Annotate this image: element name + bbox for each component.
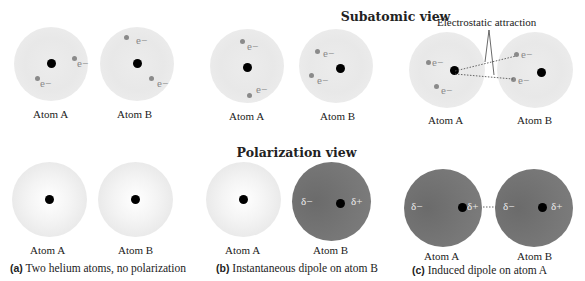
- atom-a-label: Atom A: [225, 244, 260, 256]
- atom-a-polarization-b: [206, 162, 281, 237]
- caption-text: Two helium atoms, no polarization: [26, 262, 186, 274]
- delta-minus-label: δ−: [503, 200, 514, 212]
- atom-b-label: Atom B: [313, 244, 348, 256]
- delta-plus-label: δ+: [551, 200, 562, 212]
- caption-letter: (a): [10, 262, 23, 274]
- atom-b-polarization-a: [98, 162, 173, 237]
- nucleus: [239, 195, 248, 204]
- atom-a-polarization-a: [12, 162, 87, 237]
- delta-plus-label: δ+: [467, 200, 478, 212]
- nucleus: [458, 203, 467, 212]
- caption-c: (c) Induced dipole on atom A: [412, 264, 547, 276]
- caption-a: (a) Two helium atoms, no polarization: [10, 262, 186, 274]
- atom-b-polarization-b: δ− δ+: [292, 162, 371, 241]
- atom-a-label: Atom A: [424, 250, 459, 262]
- caption-text: Induced dipole on atom A: [428, 264, 547, 276]
- nucleus: [336, 199, 345, 208]
- delta-minus-label: δ−: [301, 195, 312, 207]
- atom-b-label: Atom B: [517, 250, 552, 262]
- attraction-lines: [0, 0, 585, 281]
- caption-text: Instantaneous dipole on atom B: [232, 262, 378, 274]
- nucleus: [538, 203, 547, 212]
- delta-minus-label: δ−: [411, 200, 422, 212]
- atom-b-polarization-c: δ− δ+: [495, 169, 573, 247]
- caption-b: (b) Instantaneous dipole on atom B: [216, 262, 378, 274]
- atom-b-label: Atom B: [118, 244, 153, 256]
- caption-letter: (b): [216, 262, 229, 274]
- atom-a-polarization-c: δ− δ+: [404, 169, 482, 247]
- atom-a-label: Atom A: [30, 244, 65, 256]
- caption-letter: (c): [412, 264, 425, 276]
- nucleus: [45, 195, 54, 204]
- delta-plus-label: δ+: [351, 195, 362, 207]
- nucleus: [131, 195, 140, 204]
